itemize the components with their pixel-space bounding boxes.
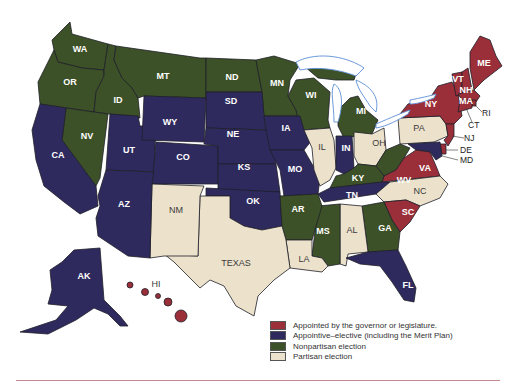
label-ma: MA [459,96,473,106]
state-co [152,142,218,184]
label-ct: CT [468,120,479,130]
label-ks: KS [238,162,251,172]
label-wi: WI [306,90,317,100]
state-ak [20,248,128,334]
state-az [96,170,154,258]
label-la: LA [298,254,309,264]
legend-label: Nonpartisan election [293,342,366,351]
state-in [336,136,354,174]
label-wa: WA [73,44,88,54]
legend-item-partisan: Partisan election [270,352,453,363]
label-tn: TN [346,190,358,200]
legend-item-appointive-elective: Appointive–elective (including the Merit… [270,331,453,342]
label-nc: NC [414,186,427,196]
label-co: CO [176,152,190,162]
label-hi: HI [152,279,161,289]
label-sc: SC [402,207,415,217]
label-ne: NE [227,129,240,139]
label-md: MD [460,155,473,165]
label-al: AL [346,225,357,235]
label-mt: MT [157,71,170,81]
swatch-nonpartisan [270,342,286,351]
legend-label: Partisan election [293,352,352,361]
label-wy: WY [163,117,178,127]
legend-label: Appointive–elective (including the Merit… [293,331,453,340]
legend-item-appointed: Appointed by the governor or legislature… [270,320,453,331]
swatch-appointive-elective [270,331,286,340]
label-oh: OH [372,138,386,148]
label-sd: SD [225,96,238,106]
label-ar: AR [292,204,305,214]
label-mo: MO [288,164,303,174]
label-mi: MI [356,106,366,116]
label-wv: WV [397,175,412,185]
label-or: OR [63,77,77,87]
label-va: VA [419,163,431,173]
label-mn: MN [270,78,284,88]
label-az: AZ [118,199,130,209]
label-nv: NV [81,131,94,141]
label-il: IL [318,142,326,152]
label-nh: NH [460,85,473,95]
swatch-appointed [270,321,286,330]
state-fl [346,250,416,302]
legend: Appointed by the governor or legislature… [270,320,453,362]
label-ms: MS [316,226,330,236]
label-me: ME [477,58,491,68]
legend-item-nonpartisan: Nonpartisan election [270,341,453,352]
label-de: DE [460,145,472,155]
label-id: ID [114,95,124,105]
lake-michigan [332,84,341,122]
label-ga: GA [378,223,392,233]
swatch-partisan [270,352,286,361]
label-ut: UT [123,145,135,155]
label-pa: PA [413,123,424,133]
label-nm: NM [169,205,183,215]
label-in: IN [342,143,351,153]
bottom-rule [16,380,500,381]
label-ny: NY [425,99,438,109]
state-nm [150,184,204,258]
label-vt: VT [452,74,464,84]
label-nj: NJ [464,133,474,143]
label-ri: RI [482,108,491,118]
label-ia: IA [282,123,292,133]
label-ak: AK [78,271,91,281]
label-fl: FL [403,280,414,290]
label-ok: OK [246,196,260,206]
label-ky: KY [352,173,365,183]
label-texas: TEXAS [221,258,251,268]
legend-label: Appointed by the governor or legislature… [293,321,437,330]
label-ca: CA [52,150,65,160]
label-nd: ND [226,72,239,82]
